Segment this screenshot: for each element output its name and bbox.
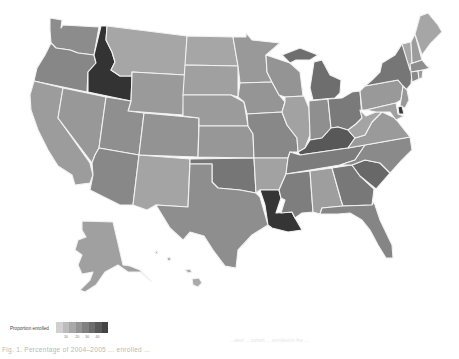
state-HI [155,251,202,287]
state-MT [106,26,187,76]
state-FL [320,202,393,258]
state-AZ [90,148,139,205]
state-NM [133,155,190,210]
state-SD [183,65,238,97]
figure-caption-faded: ...ated ... cohort ... enrolled in the .… [230,337,309,343]
legend-tick: 40 [96,335,100,339]
state-MS [279,171,313,218]
state-RI [418,70,423,79]
legend-color-bar [56,322,108,333]
legend-title: Proportion enrolled [10,326,49,331]
legend-tick: 10 [64,335,68,339]
legend-ticks: 10 20 30 40 [56,335,108,341]
legend-tick: 20 [75,335,79,339]
legend-tick: 30 [85,335,89,339]
state-AK [75,221,152,292]
state-CO [139,113,199,157]
legend-swatch [102,322,109,333]
us-choropleth-map [0,0,459,359]
state-WY [128,72,185,115]
state-ND [185,36,238,66]
figure-caption: Fig. 1. Percentage of 2004–2005 ... enro… [2,346,150,353]
state-KS [198,126,254,158]
